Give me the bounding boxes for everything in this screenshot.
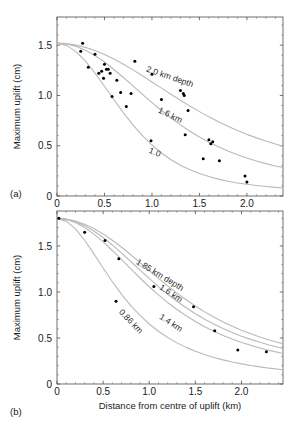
data-point <box>244 174 247 177</box>
data-point <box>109 72 112 75</box>
data-point <box>87 66 90 69</box>
data-point <box>100 70 103 73</box>
data-point <box>57 217 60 220</box>
data-point <box>184 133 187 136</box>
data-point <box>103 239 106 242</box>
data-point <box>192 305 195 308</box>
model-curve <box>57 43 283 167</box>
x-axis-title: Distance from centre of uplift (km) <box>99 400 242 411</box>
data-point <box>187 109 190 112</box>
data-point <box>102 77 105 80</box>
x-tick-label: 1.5 <box>188 386 202 397</box>
panel-letter-label: (a) <box>10 188 22 199</box>
data-point <box>133 60 136 63</box>
curve-label: 1.0 <box>148 145 163 159</box>
data-point <box>79 50 82 53</box>
data-point <box>152 285 155 288</box>
data-point <box>125 105 128 108</box>
x-tick-label: 2.0 <box>240 198 254 209</box>
y-tick-label: 1.5 <box>38 40 52 51</box>
data-point <box>160 98 163 101</box>
data-point <box>117 257 120 260</box>
y-axis-title: Maximum uplift (cm) <box>11 255 22 341</box>
data-point <box>115 300 118 303</box>
data-point <box>218 159 221 162</box>
data-point <box>103 63 106 66</box>
data-point <box>179 89 182 92</box>
y-axis-title: Maximum uplift (cm) <box>11 64 22 150</box>
data-point <box>107 68 110 71</box>
data-point <box>111 95 114 98</box>
x-tick-label: 0 <box>54 386 60 397</box>
panel-b: 00.51.01.52.000.51.01.51.85 km depth1.6 … <box>10 211 283 417</box>
data-point <box>211 140 214 143</box>
data-point <box>183 94 186 97</box>
x-tick-label: 1.0 <box>142 386 156 397</box>
panel-a: 00.51.01.52.000.51.01.52.0 km depth1.6 k… <box>10 17 283 209</box>
data-point <box>236 348 239 351</box>
panel-letter-label: (b) <box>10 406 22 417</box>
curve-label: 1.4 km <box>158 311 185 333</box>
y-tick-label: 1.5 <box>38 241 52 252</box>
curve-label: 2.0 km depth <box>145 64 195 90</box>
model-curve <box>57 43 283 146</box>
data-point <box>119 91 122 94</box>
y-tick-label: 0.5 <box>38 333 52 344</box>
y-tick-label: 0.5 <box>38 140 52 151</box>
x-tick-label: 2.0 <box>235 386 249 397</box>
x-tick-label: 0 <box>54 198 60 209</box>
data-point <box>115 79 118 82</box>
data-point <box>81 42 84 45</box>
data-point <box>150 139 153 142</box>
data-point <box>265 350 268 353</box>
data-point <box>150 73 153 76</box>
x-tick-label: 0.5 <box>98 198 112 209</box>
uplift-figure-svg: 00.51.01.52.000.51.01.52.0 km depth1.6 k… <box>0 0 295 424</box>
plot-frame <box>57 17 283 196</box>
data-point <box>202 157 205 160</box>
data-point <box>93 53 96 56</box>
data-point <box>213 329 216 332</box>
curve-label: 1.6 km <box>157 105 184 125</box>
y-tick-label: 1.0 <box>38 287 52 298</box>
y-tick-label: 1.0 <box>38 90 52 101</box>
x-tick-label: 1.5 <box>192 198 206 209</box>
figure-container: 00.51.01.52.000.51.01.52.0 km depth1.6 k… <box>0 0 295 424</box>
curve-label: 0.86 km <box>117 307 145 336</box>
data-point <box>97 72 100 75</box>
data-point <box>245 180 248 183</box>
y-tick-label: 0 <box>46 379 52 390</box>
y-tick-label: 0 <box>46 191 52 202</box>
data-point <box>130 92 133 95</box>
x-tick-label: 1.0 <box>145 198 159 209</box>
x-tick-label: 0.5 <box>96 386 110 397</box>
data-point <box>83 231 86 234</box>
data-point <box>207 138 210 141</box>
